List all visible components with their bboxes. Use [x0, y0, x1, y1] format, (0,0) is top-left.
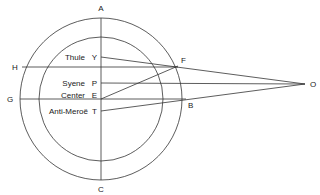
label-center: Center: [61, 91, 85, 100]
line-PO: [101, 83, 305, 84]
label-E: E: [92, 91, 97, 100]
line-YO: [101, 57, 305, 84]
line-TO: [101, 84, 305, 111]
label-anti-meroe: Anti-Meroë: [49, 107, 89, 116]
label-F: F: [181, 56, 186, 65]
label-P: P: [92, 79, 97, 88]
label-G: G: [7, 95, 13, 104]
geometry-diagram: A C H G F B O Y P E T Thule Syene Center…: [0, 0, 320, 195]
label-H: H: [12, 63, 18, 72]
label-Y: Y: [92, 53, 98, 62]
line-EF: [101, 66, 178, 99]
label-thule: Thule: [65, 53, 86, 62]
label-T: T: [92, 107, 97, 116]
label-O: O: [310, 80, 316, 89]
label-A: A: [98, 4, 104, 13]
label-C: C: [98, 185, 104, 194]
label-syene: Syene: [62, 79, 85, 88]
label-B: B: [188, 101, 193, 110]
